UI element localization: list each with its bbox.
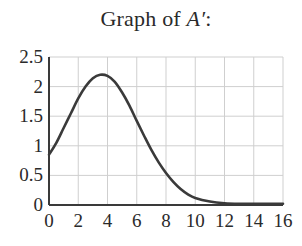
x-tick-label: 14 xyxy=(244,210,264,231)
y-tick-label: 2.5 xyxy=(19,46,43,67)
x-tick-labels: 0246810121416 xyxy=(44,210,292,231)
x-tick-label: 10 xyxy=(186,210,205,231)
grid-lines xyxy=(49,57,283,205)
y-tick-label: 1 xyxy=(34,135,44,156)
y-tick-label: 2 xyxy=(34,76,44,97)
y-tick-labels: 00.511.522.5 xyxy=(19,46,43,215)
y-tick-label: 0 xyxy=(34,194,44,215)
x-tick-label: 8 xyxy=(161,210,171,231)
y-tick-label: 1.5 xyxy=(19,105,43,126)
x-tick-label: 0 xyxy=(44,210,54,231)
x-tick-label: 16 xyxy=(274,210,293,231)
line-chart: 00.511.522.5 0246810121416 xyxy=(0,0,302,246)
x-tick-label: 2 xyxy=(74,210,84,231)
y-tick-label: 0.5 xyxy=(19,164,43,185)
x-tick-label: 4 xyxy=(103,210,113,231)
x-tick-label: 12 xyxy=(215,210,234,231)
x-tick-label: 6 xyxy=(132,210,142,231)
